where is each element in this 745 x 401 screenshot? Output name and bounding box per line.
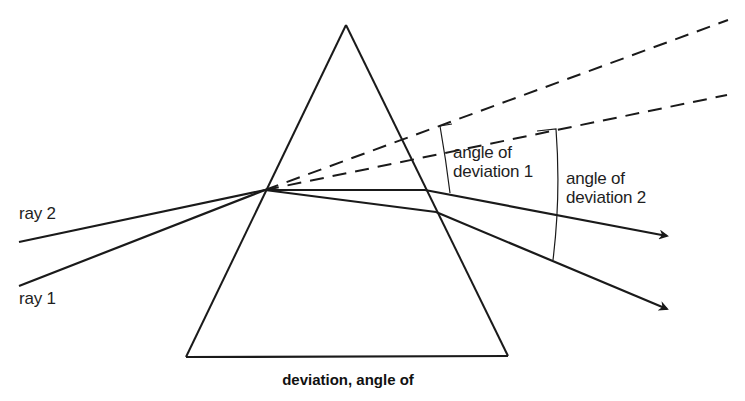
ray-2-text: ray 2 <box>19 204 56 223</box>
ray-1-label: ray 1 <box>19 289 56 308</box>
ray-1-text: ray 1 <box>19 289 56 308</box>
emergent-rays <box>425 190 667 309</box>
angle-1-line2: deviation 1 <box>453 162 533 181</box>
angle-of-deviation-2-label: angle of deviation 2 <box>566 169 646 207</box>
figure-caption: deviation, angle of <box>282 371 414 388</box>
emergent-ray-1 <box>436 212 667 309</box>
angle-2-line2: deviation 2 <box>566 188 646 207</box>
angle-2-line1: angle of <box>566 169 646 188</box>
angle-bracket-1 <box>440 124 452 193</box>
angle-1-line1: angle of <box>453 143 533 162</box>
prism-base <box>186 356 508 357</box>
refracted-ray-1 <box>265 190 436 212</box>
ray-2-label: ray 2 <box>19 204 56 223</box>
angle-bracket-2 <box>537 129 558 260</box>
incident-ray-2 <box>19 190 265 242</box>
angle-of-deviation-1-label: angle of deviation 1 <box>453 143 533 181</box>
refracted-rays <box>265 190 436 212</box>
